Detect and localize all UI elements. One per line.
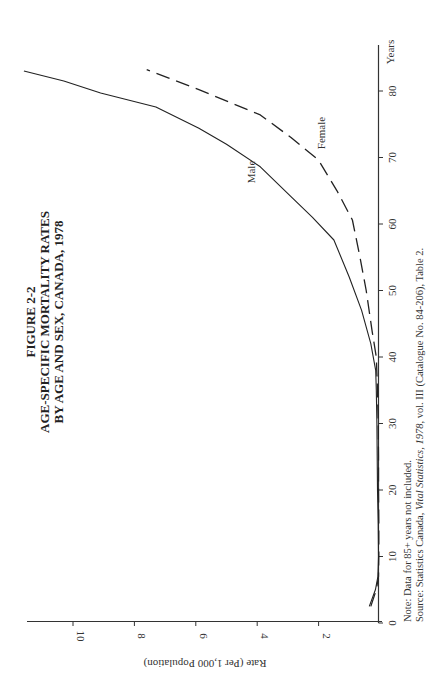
figure-number: FIGURE 2-2 bbox=[23, 286, 38, 357]
years-tick-label: 30 bbox=[386, 418, 398, 430]
years-tick-label: 0 bbox=[386, 620, 398, 626]
years-tick-label: 70 bbox=[386, 152, 398, 164]
rate-tick-label: 4 bbox=[259, 633, 271, 639]
years-tick-label: 50 bbox=[386, 285, 398, 297]
years-tick-label: 20 bbox=[386, 484, 398, 496]
chart: FIGURE 2-2 AGE-SPECIFIC MORTALITY RATES … bbox=[0, 0, 439, 678]
source-suffix: , vol. III (Catalogue No. 84-206), Table… bbox=[414, 248, 426, 424]
years-tick-label: 10 bbox=[386, 551, 398, 563]
rate-tick-label: 8 bbox=[136, 633, 148, 639]
rate-tick-label: 2 bbox=[321, 633, 333, 639]
years-tick-label: 40 bbox=[386, 351, 398, 363]
female-label: Female bbox=[315, 117, 327, 149]
title-line-2: BY AGE AND SEX, CANADA, 1978 bbox=[51, 220, 66, 423]
source-text: Source: Statistics Canada, Vital Statist… bbox=[414, 248, 426, 622]
source-title: Vital Statistics, 1978 bbox=[414, 423, 425, 510]
male-curve bbox=[24, 71, 379, 606]
figure-title: FIGURE 2-2 AGE-SPECIFIC MORTALITY RATES … bbox=[23, 211, 66, 433]
years-tick-label: 60 bbox=[386, 218, 398, 230]
note-text: Note: Data for 85+ years not included. bbox=[402, 460, 413, 622]
male-label: Male bbox=[245, 161, 257, 184]
years-axis-title: Years bbox=[384, 40, 396, 65]
rate-tick-label: 6 bbox=[198, 633, 210, 639]
female-curve bbox=[147, 70, 379, 607]
title-line-1: AGE-SPECIFIC MORTALITY RATES bbox=[37, 211, 52, 433]
rate-tick-label: 10 bbox=[75, 631, 87, 643]
rate-axis-title: Rate (Per 1,000 Population) bbox=[143, 657, 266, 670]
years-tick-label: 80 bbox=[386, 85, 398, 97]
plot-area: 01020304050607080246810 bbox=[24, 45, 398, 642]
source-prefix: Source: Statistics Canada, bbox=[414, 510, 425, 622]
